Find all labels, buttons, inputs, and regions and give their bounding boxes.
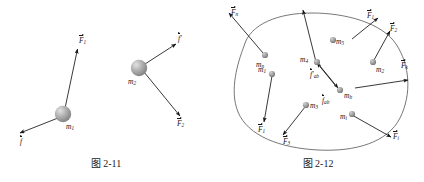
label-F1-fig211: F1 <box>79 37 86 46</box>
subscript-1: 1 <box>71 125 74 131</box>
arrow-f-m1 <box>20 118 58 133</box>
vector-symbol-Fn: F <box>231 9 236 17</box>
arrow-F3 <box>283 107 305 135</box>
mass-m4-body <box>314 59 320 65</box>
label-Fn-fig212: Fn <box>231 9 238 18</box>
mass-m1-body <box>55 106 71 122</box>
label-mi-fig212: mi <box>340 113 347 122</box>
subscript-b: b <box>349 94 352 100</box>
label-f-fig211: f <box>20 138 22 146</box>
arrow-F2-m2 <box>144 72 180 116</box>
label-m5-fig212: m5 <box>336 38 344 47</box>
vector-symbol-F1-bottom: F <box>258 126 263 134</box>
label-m4-fig212: m4 <box>300 56 308 65</box>
label-f-ab-prime-fig212: f′ab <box>310 71 319 80</box>
label-mb-fig212: mb <box>344 92 352 101</box>
vector-symbol-f: f <box>20 138 22 146</box>
subscript-ab: ab <box>324 99 329 105</box>
subscript-2: 2 <box>381 68 384 74</box>
label-F2-fig211: F2 <box>177 120 184 129</box>
arrow-F1-m1 <box>64 49 78 113</box>
mass-m3-body <box>303 102 309 108</box>
label-m1-fig211: m1 <box>66 123 74 132</box>
subscript-4: 4 <box>305 58 308 64</box>
mass-mi-body <box>349 111 355 117</box>
arrow-F1-bottom <box>264 76 272 122</box>
subscript-ab: ab <box>314 73 319 79</box>
arrow-Fk <box>355 80 408 88</box>
fig-2-12-group <box>229 10 408 150</box>
subscript-3: 3 <box>315 104 318 110</box>
arrow-f-ab <box>320 66 338 88</box>
arrow-Fn <box>229 13 263 53</box>
label-m2-fig212: m2 <box>376 66 384 75</box>
vector-symbol-F3: F <box>283 138 288 146</box>
subscript-i: i <box>345 115 346 121</box>
vector-symbol-Fi: F <box>393 133 398 141</box>
arrow-F1-top <box>352 18 378 39</box>
arrow-Fi <box>352 115 391 137</box>
label-F3-fig212: F3 <box>283 138 290 147</box>
subscript-1: 1 <box>263 68 266 74</box>
subscript-2: 2 <box>133 80 136 86</box>
label-m2-fig211: m2 <box>128 78 136 87</box>
vector-symbol-Fk: F <box>401 62 406 70</box>
vector-symbol-F1: F <box>79 37 84 45</box>
vector-symbol-f-ab: f <box>322 97 324 105</box>
mass-mb-body <box>337 87 343 93</box>
label-Fk-fig212: Fk <box>401 62 408 71</box>
label-f-prime-fig211: f′ <box>178 35 182 43</box>
prime-mark: ′ <box>180 34 182 43</box>
vector-symbol-F1-top: F <box>367 12 372 20</box>
arrow-F2 <box>374 31 390 60</box>
arrow-fprime-m2 <box>145 44 176 64</box>
label-F2-fig212: F2 <box>390 25 397 34</box>
label-m3-fig212: m3 <box>310 102 318 111</box>
mass-m1-body-12 <box>269 71 275 77</box>
label-m1-fig212: m1 <box>258 66 266 75</box>
vector-symbol-f-ab-prime: f <box>310 71 312 79</box>
label-Fi-fig212: Fi <box>393 133 399 142</box>
vector-symbol-f-prime: f <box>178 35 180 43</box>
label-F1-bottom-fig212: F1 <box>258 126 265 135</box>
mass-m2-body <box>131 60 147 76</box>
mass-mn-body <box>262 52 268 58</box>
label-F1-top-fig212: F1 <box>367 12 374 21</box>
vector-symbol-F2-12: F <box>390 25 395 33</box>
label-f-ab-fig212: fab <box>322 97 329 106</box>
subscript-5: 5 <box>341 40 344 46</box>
vector-symbol-F2: F <box>177 120 182 128</box>
caption-fig-2-12: 图 2-12 <box>212 155 424 170</box>
fig-2-11-group <box>20 44 180 133</box>
figure-sheet: F1 m1 f m2 f′ F2 Fn mn m5 F1 F2 m2 Fk m1… <box>0 0 424 182</box>
caption-fig-2-11: 图 2-11 <box>0 155 212 170</box>
